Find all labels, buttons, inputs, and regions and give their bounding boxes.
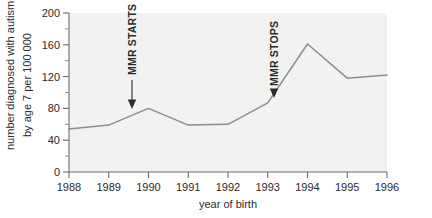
x-tick-label: 1990 [136,181,160,193]
y-axis-title-line2: by age 7 per 100 000 [21,33,33,137]
annotation-mmr-stops: MMR STOPS [268,21,280,98]
annotation-label-mmr-stops: MMR STOPS [268,21,280,86]
x-axis-tick-labels: 1988 1989 1990 1991 1992 1993 1994 1995 … [57,181,399,193]
x-axis-title: year of birth [199,198,257,210]
y-tick-label: 80 [48,102,60,114]
x-axis-major-ticks [69,172,387,178]
x-tick-label: 1995 [335,181,359,193]
x-tick-label: 1989 [97,181,121,193]
y-tick-label: 40 [48,134,60,146]
y-tick-label: 160 [42,39,60,51]
x-tick-label: 1994 [295,181,319,193]
x-tick-label: 1993 [256,181,280,193]
y-tick-label: 0 [54,166,60,178]
chart-screenshot: 200 160 120 80 40 0 1988 1989 1990 1991 … [0,0,432,218]
x-tick-label: 1991 [176,181,200,193]
y-axis-title-line1: number diagnosed with autism [4,1,16,150]
autism-mmr-line-chart: 200 160 120 80 40 0 1988 1989 1990 1991 … [0,0,432,218]
x-tick-label: 1988 [57,181,81,193]
y-axis-tick-labels: 200 160 120 80 40 0 [42,7,60,178]
y-tick-label: 200 [42,7,60,19]
x-tick-label: 1992 [216,181,240,193]
x-tick-label: 1996 [375,181,399,193]
annotation-label-mmr-starts: MMR STARTS [126,4,138,75]
y-tick-label: 120 [42,71,60,83]
y-axis-title: number diagnosed with autism by age 7 pe… [4,1,33,150]
y-axis-minor-ticks [65,29,69,156]
plot-area-background [69,13,387,172]
